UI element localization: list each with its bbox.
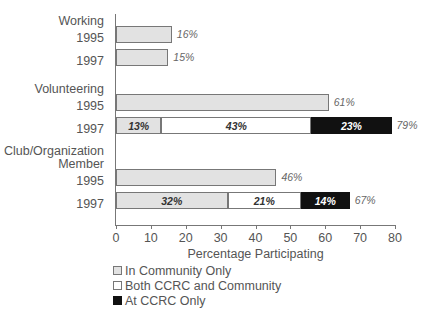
bar-total-label: 61% bbox=[329, 94, 355, 111]
bar-total-label: 79% bbox=[392, 117, 418, 134]
legend-swatch-both-ccrc-and-community bbox=[113, 281, 122, 290]
bar-segment: 43% bbox=[161, 117, 311, 134]
x-tick-mark bbox=[186, 225, 187, 229]
legend-item: At CCRC Only bbox=[113, 293, 281, 308]
x-tick-label: 70 bbox=[353, 231, 367, 245]
row-label-volunteering-1997: 1997 bbox=[76, 123, 104, 136]
bar-segment bbox=[116, 169, 276, 186]
bar-segment-value-label: 43% bbox=[162, 118, 310, 134]
group-label-volunteering: Volunteering bbox=[34, 83, 104, 96]
x-tick-label: 40 bbox=[249, 231, 263, 245]
bar-segment bbox=[116, 26, 172, 43]
x-tick-mark bbox=[395, 225, 396, 229]
bar-segment-value-label: 32% bbox=[117, 193, 227, 209]
legend-label-in-community-only: In Community Only bbox=[125, 264, 231, 278]
row-label-club-1995: 1995 bbox=[76, 175, 104, 188]
x-tick-label: 60 bbox=[318, 231, 332, 245]
chart-legend: In Community Only Both CCRC and Communit… bbox=[113, 263, 281, 308]
x-tick-mark bbox=[325, 225, 326, 229]
bar-total-label: 67% bbox=[350, 192, 376, 209]
x-tick-mark bbox=[151, 225, 152, 229]
stacked-bar-chart: Working 1995 1997 Volunteering 1995 1997… bbox=[0, 0, 434, 327]
bar-segment-value-label: 21% bbox=[229, 193, 300, 209]
bar-segment: 23% bbox=[311, 117, 391, 134]
legend-label-at-ccrc-only: At CCRC Only bbox=[125, 294, 206, 308]
bar-segment: 32% bbox=[116, 192, 228, 209]
group-label-working: Working bbox=[58, 15, 104, 28]
x-tick-mark bbox=[360, 225, 361, 229]
x-tick-label: 0 bbox=[113, 231, 120, 245]
x-tick-mark bbox=[221, 225, 222, 229]
x-tick-label: 30 bbox=[214, 231, 228, 245]
row-label-working-1995: 1995 bbox=[76, 32, 104, 45]
bar-segment: 14% bbox=[301, 192, 350, 209]
row-label-club-1997: 1997 bbox=[76, 198, 104, 211]
bar-segment bbox=[116, 49, 168, 66]
bar-segment-value-label: 14% bbox=[302, 193, 349, 209]
bar-total-label: 15% bbox=[168, 49, 194, 66]
x-tick-mark bbox=[290, 225, 291, 229]
x-tick-mark bbox=[256, 225, 257, 229]
group-label-club: Club/Organization Member bbox=[4, 145, 104, 171]
plot-area: 16%15%61%13%43%23%79%46%32%21%14%67% bbox=[116, 14, 395, 225]
x-tick-label: 80 bbox=[388, 231, 402, 245]
x-tick-mark bbox=[116, 225, 117, 229]
x-tick-label: 20 bbox=[179, 231, 193, 245]
legend-item: In Community Only bbox=[113, 263, 281, 278]
legend-swatch-at-ccrc-only bbox=[113, 296, 122, 305]
bar-total-label: 16% bbox=[172, 26, 198, 43]
bar-segment bbox=[116, 94, 329, 111]
legend-swatch-in-community-only bbox=[113, 266, 122, 275]
bar-segment: 21% bbox=[228, 192, 301, 209]
bar-segment-value-label: 13% bbox=[117, 118, 160, 134]
legend-label-both-ccrc-and-community: Both CCRC and Community bbox=[125, 279, 281, 293]
legend-item: Both CCRC and Community bbox=[113, 278, 281, 293]
x-axis-title: Percentage Participating bbox=[116, 247, 395, 261]
bar-total-label: 46% bbox=[276, 169, 302, 186]
row-label-working-1997: 1997 bbox=[76, 55, 104, 68]
bar-segment-value-label: 23% bbox=[312, 118, 390, 134]
row-label-volunteering-1995: 1995 bbox=[76, 100, 104, 113]
category-label-column: Working 1995 1997 Volunteering 1995 1997… bbox=[0, 0, 104, 232]
bar-segment: 13% bbox=[116, 117, 161, 134]
x-tick-label: 50 bbox=[283, 231, 297, 245]
x-tick-label: 10 bbox=[144, 231, 158, 245]
